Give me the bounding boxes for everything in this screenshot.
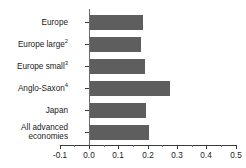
category-label-text: Japan [46,106,68,115]
x-tick [60,145,61,149]
x-tick [206,145,207,149]
x-tick-label: 0.0 [75,151,103,160]
x-tick-minor [221,145,222,147]
category-tick [85,110,89,111]
x-tick [89,145,90,149]
category-label-text: Europe small [17,62,65,71]
bar-japan [89,103,146,118]
x-tick-minor [74,145,75,147]
category-tick [85,66,89,67]
x-tick-minor [133,145,134,147]
zero-axis-line [89,9,90,145]
category-label-text: Anglo-Saxon [18,84,65,93]
x-tick [236,145,237,149]
x-tick-label: 0.4 [192,151,220,160]
footnote-marker: 4 [65,82,68,88]
category-label-anglo-saxon: Anglo-Saxon4 [0,84,68,94]
category-label-text-line1: All advanced [21,123,68,132]
x-tick [118,145,119,149]
x-tick [148,145,149,149]
category-tick [85,132,89,133]
category-label-text: Europe [42,18,68,27]
category-tick [85,88,89,89]
bar-europe [89,15,143,30]
bar-all-advanced-economies [89,125,149,140]
category-label-text: Europe large [18,40,65,49]
bar-anglo-saxon [89,81,170,96]
category-label-europe-large: Europe large2 [0,40,68,50]
x-tick-label: 0.1 [104,151,132,160]
footnote-marker: 3 [65,60,68,66]
x-tick [177,145,178,149]
category-label-japan: Japan [0,106,68,116]
x-tick-label: 0.3 [163,151,191,160]
x-tick-label: 0.2 [134,151,162,160]
x-tick-minor [192,145,193,147]
category-tick [85,22,89,23]
category-label-all-advanced-economies: All advanced economies [0,123,68,141]
bar-europe-small [89,59,145,74]
x-tick-minor [104,145,105,147]
bar-chart: Europe Europe large2 Europe small3 Anglo… [0,0,246,168]
x-tick-label: -0.1 [46,151,74,160]
category-label-europe: Europe [0,18,68,28]
category-tick [85,44,89,45]
category-label-europe-small: Europe small3 [0,62,68,72]
bar-europe-large [89,37,141,52]
footnote-marker: 2 [65,38,68,44]
x-tick-label: 0.5 [222,151,246,160]
x-tick-minor [162,145,163,147]
category-label-text-line2: economies [28,132,68,141]
